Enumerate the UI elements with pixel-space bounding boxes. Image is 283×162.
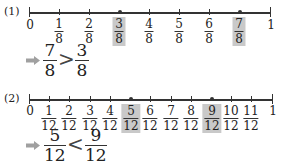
tick [191, 96, 192, 102]
tick [59, 9, 60, 15]
point-marker [238, 10, 242, 14]
fraction-label: 58 [173, 17, 186, 46]
arrow-right-icon [26, 141, 40, 150]
tick [150, 96, 151, 102]
label-one: 1 [269, 104, 277, 118]
tick [251, 96, 252, 102]
fraction-label: 612 [140, 104, 159, 133]
arrow-right-icon [26, 56, 40, 65]
comparison-right-fraction: 38 [75, 42, 89, 79]
tick [69, 96, 70, 102]
tick [179, 9, 180, 15]
tick-start [29, 94, 30, 104]
fraction-label-highlighted: 38 [113, 17, 126, 46]
fraction-label: 68 [203, 17, 216, 46]
comparison-right-fraction: 912 [85, 127, 107, 162]
fraction-label: 812 [181, 104, 200, 133]
comparison-symbol: > [58, 47, 75, 71]
fraction-label: 1012 [221, 104, 240, 133]
point-marker [118, 10, 122, 14]
tick [110, 96, 111, 102]
tick [90, 96, 91, 102]
problem-1-label: (1) [4, 5, 20, 18]
comparison-left-fraction: 78 [43, 42, 57, 79]
fraction-label: 48 [143, 17, 156, 46]
problem-2-label: (2) [4, 92, 20, 105]
fraction-label-highlighted: 512 [121, 104, 140, 133]
fraction-label: 712 [161, 104, 180, 133]
comparison-symbol: < [67, 132, 84, 156]
point-marker [129, 97, 133, 101]
tick [231, 96, 232, 102]
fraction-label: 1112 [241, 104, 260, 133]
point-marker [210, 97, 214, 101]
tick [209, 9, 210, 15]
label-one: 1 [267, 18, 275, 32]
label-zero: 0 [26, 18, 34, 32]
tick-end [272, 94, 273, 104]
label-zero: 0 [26, 104, 34, 118]
tick-start [29, 7, 30, 17]
tick [49, 96, 50, 102]
tick [89, 9, 90, 15]
fraction-label-highlighted: 78 [233, 17, 246, 46]
tick [171, 96, 172, 102]
fraction-label-highlighted: 912 [202, 104, 221, 133]
tick-end [270, 7, 271, 17]
tick [149, 9, 150, 15]
comparison-left-fraction: 512 [44, 127, 66, 162]
